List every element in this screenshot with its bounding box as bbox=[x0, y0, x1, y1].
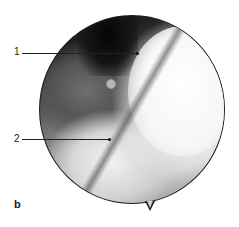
endoscopic-view bbox=[39, 15, 225, 204]
view-notch-fill bbox=[147, 201, 153, 208]
callout-label-2: 2 bbox=[14, 134, 20, 144]
callout-label-1: 1 bbox=[14, 47, 20, 57]
tissue-fold bbox=[40, 16, 224, 203]
bubble bbox=[106, 79, 116, 89]
callout-dot-1 bbox=[136, 52, 139, 55]
callout-dot-2 bbox=[108, 138, 111, 141]
panel-label: b bbox=[14, 198, 21, 210]
figure: 1 2 b bbox=[0, 0, 239, 227]
callout-line-1 bbox=[22, 53, 137, 54]
callout-line-2 bbox=[22, 139, 110, 140]
